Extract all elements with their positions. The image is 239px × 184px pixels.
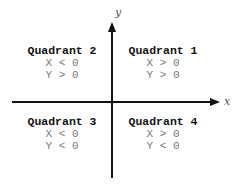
quadrant-3: Quadrant 3 X < 0 Y < 0 bbox=[22, 115, 102, 152]
y-condition: Y < 0 bbox=[123, 140, 203, 152]
quadrant-4: Quadrant 4 X > 0 Y < 0 bbox=[123, 115, 203, 152]
quadrant-title: Quadrant 1 bbox=[123, 44, 203, 57]
quadrant-title: Quadrant 4 bbox=[123, 115, 203, 128]
x-condition: X < 0 bbox=[22, 57, 102, 69]
x-axis-label: x bbox=[224, 96, 230, 107]
y-condition: Y > 0 bbox=[123, 69, 203, 81]
y-condition: Y > 0 bbox=[22, 69, 102, 81]
y-axis-arrow-icon bbox=[108, 22, 116, 32]
axes bbox=[0, 0, 239, 184]
y-condition: Y < 0 bbox=[22, 140, 102, 152]
quadrant-diagram: y x Quadrant 2 X < 0 Y > 0 Quadrant 1 X … bbox=[0, 0, 239, 184]
quadrant-2: Quadrant 2 X < 0 Y > 0 bbox=[22, 44, 102, 81]
y-axis-label: y bbox=[115, 7, 121, 18]
quadrant-title: Quadrant 2 bbox=[22, 44, 102, 57]
x-condition: X < 0 bbox=[22, 128, 102, 140]
x-condition: X > 0 bbox=[123, 128, 203, 140]
quadrant-title: Quadrant 3 bbox=[22, 115, 102, 128]
quadrant-1: Quadrant 1 X > 0 Y > 0 bbox=[123, 44, 203, 81]
x-condition: X > 0 bbox=[123, 57, 203, 69]
x-axis-arrow-icon bbox=[210, 98, 220, 106]
